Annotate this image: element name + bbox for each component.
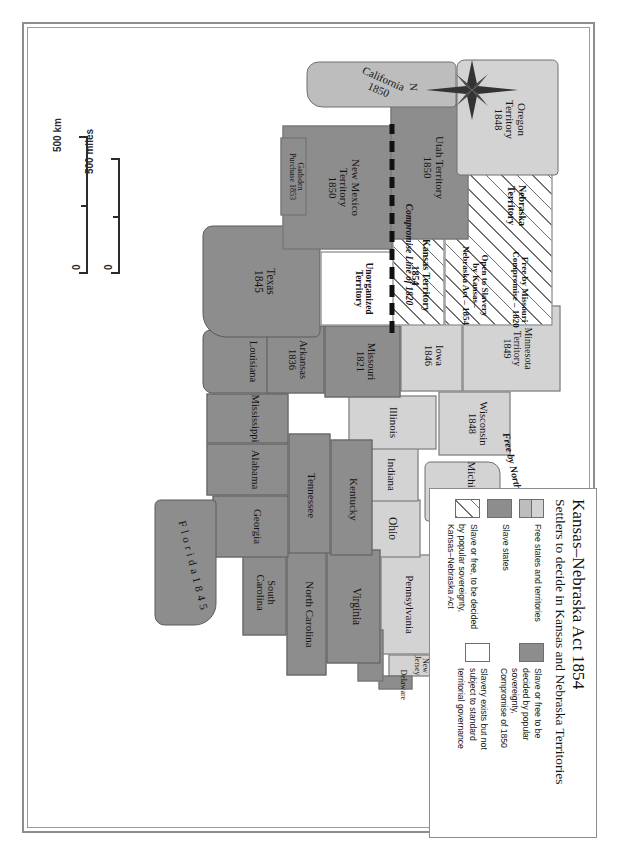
region-north-carolina[interactable] [287, 552, 327, 676]
legend-label-slave-states: Slave states [499, 524, 511, 571]
region-kentucky[interactable] [331, 440, 373, 556]
scale-bar-miles-zero: 0 [103, 264, 114, 270]
legend: Kansas–Nebraska Act 1854 Settlers to dec… [429, 488, 597, 838]
legend-swatch-unorganized [465, 643, 490, 662]
scale-bar-miles-tick-bottom [111, 272, 119, 274]
region-iowa[interactable] [401, 320, 463, 392]
region-virginia[interactable] [327, 550, 381, 664]
legend-swatch-compromise-1850 [519, 643, 544, 662]
legend-title: Kansas–Nebraska Act 1854 [569, 499, 588, 827]
region-unorganized-territory[interactable] [321, 252, 395, 326]
scale-bar-miles: 500 miles 0 [94, 130, 134, 280]
region-south-carolina[interactable] [243, 550, 287, 636]
scale-bar-miles-tick-top [111, 158, 119, 160]
compromise-line-1820 [390, 124, 395, 336]
region-missouri[interactable] [325, 326, 401, 398]
legend-subtitle: Settlers to decide in Kansas and Nebrask… [553, 499, 568, 827]
region-delaware[interactable] [379, 676, 413, 690]
region-gadsden-purchase[interactable] [281, 138, 307, 216]
legend-swatch-slave-states [487, 499, 512, 518]
compass-rose-icon [410, 55, 520, 125]
scale-bar-km-tick-mid [81, 205, 87, 207]
scale-bar-km-zero: 0 [71, 264, 82, 270]
region-wisconsin[interactable] [439, 392, 511, 456]
legend-label-compromise-1850: Slave or free to be decided by popular s… [497, 668, 544, 748]
legend-label-unorganized: Slavery exists but not subject to standa… [455, 668, 490, 750]
legend-item-slave-states[interactable]: Slave states [487, 499, 512, 629]
legend-swatch-popular-sovereignty [455, 499, 480, 518]
region-kansas-territory[interactable] [393, 226, 445, 326]
legend-label-free-states: Free states and territories [531, 524, 543, 622]
scale-bar-miles-label: 500 miles [84, 129, 95, 174]
legend-item-unorganized[interactable]: Slavery exists but not subject to standa… [455, 643, 490, 750]
legend-item-free-states[interactable]: Free states and territories [519, 499, 544, 629]
region-pennsylvania[interactable] [381, 555, 433, 655]
compass-north-label: N [408, 83, 420, 91]
legend-swatch-free-states [519, 499, 544, 518]
legend-column-left: Free states and territories Slave states… [445, 499, 544, 629]
region-tennessee[interactable] [289, 434, 331, 554]
legend-item-compromise-1850[interactable]: Slave or free to be decided by popular s… [497, 643, 544, 750]
scale-bar-km-tick-bottom [79, 272, 87, 274]
region-florida[interactable] [155, 500, 217, 626]
region-alabama[interactable] [207, 444, 289, 496]
region-georgia[interactable] [213, 496, 289, 558]
compass-rose: N [410, 55, 520, 125]
scale-bar-miles-tick-mid [113, 216, 119, 218]
region-mississippi[interactable] [207, 394, 289, 444]
legend-column-right: Slave or free to be decided by popular s… [445, 643, 544, 750]
legend-container: Kansas–Nebraska Act 1854 Settlers to dec… [428, 487, 598, 839]
legend-item-popular-sovereignty[interactable]: Slave or free, to be decided by popular … [445, 499, 480, 629]
scale-bar-km-label: 500 km [52, 118, 63, 152]
legend-label-popular-sovereignty: Slave or free, to be decided by popular … [445, 524, 480, 629]
